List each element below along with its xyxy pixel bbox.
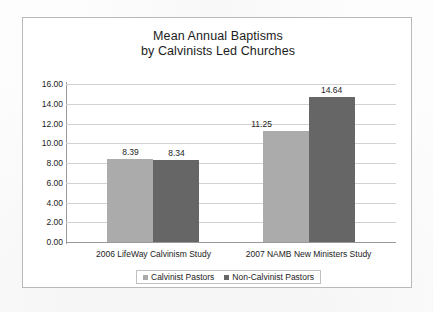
legend-label: Non-Calvinist Pastors: [232, 272, 314, 282]
bar-value-label: 8.39: [107, 147, 153, 157]
legend-item: Calvinist Pastors: [143, 272, 214, 282]
chart-title-line-1: Mean Annual Baptisms: [23, 29, 413, 44]
y-axis-tick-label: 14.00: [27, 99, 63, 109]
plot-area: 8.398.3411.2514.64: [66, 84, 396, 242]
bar-value-label: 11.25: [239, 119, 285, 129]
bar-value-label: 14.64: [309, 85, 355, 95]
legend-label: Calvinist Pastors: [151, 272, 214, 282]
chart-title-line-2: by Calvinists Led Churches: [23, 44, 413, 59]
y-axis-tick-label: 6.00: [27, 178, 63, 188]
y-axis-tick-label: 0.00: [27, 237, 63, 247]
x-axis-category-label: 2006 LifeWay Calvinism Study: [73, 249, 233, 259]
x-axis-baseline: [66, 242, 396, 243]
bar: [153, 160, 199, 242]
y-axis-tick-label: 4.00: [27, 198, 63, 208]
y-axis-tick-labels: 16.0014.0012.0010.008.006.004.002.000.00: [23, 84, 63, 242]
legend-swatch-icon: [224, 275, 229, 280]
y-axis-tick-label: 12.00: [27, 119, 63, 129]
y-axis-tick-label: 8.00: [27, 158, 63, 168]
scanned-page: Mean Annual Baptisms by Calvinists Led C…: [0, 0, 433, 312]
chart-frame: Mean Annual Baptisms by Calvinists Led C…: [22, 17, 412, 288]
chart-title: Mean Annual Baptisms by Calvinists Led C…: [23, 29, 413, 59]
bar: [107, 159, 153, 242]
x-axis-category-label: 2007 NAMB New Ministers Study: [229, 249, 389, 259]
y-axis-tick-label: 2.00: [27, 217, 63, 227]
y-axis-tick-label: 10.00: [27, 138, 63, 148]
y-axis-tick-label: 16.00: [27, 79, 63, 89]
legend-swatch-icon: [143, 275, 148, 280]
legend-item: Non-Calvinist Pastors: [224, 272, 314, 282]
chart-legend: Calvinist PastorsNon-Calvinist Pastors: [136, 270, 321, 284]
bar: [263, 131, 309, 242]
bar-value-label: 8.34: [153, 148, 199, 158]
bar: [309, 97, 355, 242]
